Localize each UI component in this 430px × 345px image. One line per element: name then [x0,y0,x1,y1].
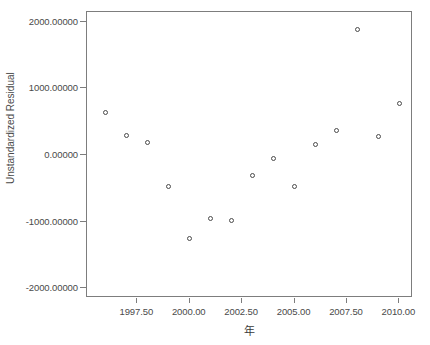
x-axis-tick-mark [136,298,137,303]
y-axis-tick-label: 2000.00000 [29,15,78,26]
data-point [292,184,297,189]
data-point [208,216,213,221]
data-point [124,133,129,138]
y-axis-title: Unstandardized Residual [0,162,22,184]
x-axis-tick-mark [189,298,190,303]
x-axis-tick-mark [294,298,295,303]
data-point [103,110,108,115]
plot-data-area [87,12,411,296]
x-axis-tick-label: 2007.50 [329,306,363,317]
data-point [355,27,360,32]
y-axis-tick-label: 0.00000 [44,149,78,160]
x-axis-tick-label: 2005.00 [277,306,311,317]
y-axis-tick-label: -2000.00000 [26,282,78,293]
data-point [166,184,171,189]
data-point [145,140,150,145]
plot-frame [86,11,412,297]
y-axis-tick-label: 1000.00000 [29,82,78,93]
x-axis-tick-label: 2002.50 [224,306,258,317]
data-point [250,173,255,178]
x-axis-tick-label: 2000.00 [172,306,206,317]
data-point [229,218,234,223]
x-axis-tick-mark [398,298,399,303]
x-axis-tick-label: 1997.50 [119,306,153,317]
data-point [376,134,381,139]
x-axis-tick-mark [241,298,242,303]
y-axis-tick-label: -1000.00000 [26,215,78,226]
y-axis-title-text: Unstandardized Residual [0,72,22,184]
x-axis-tick-label: 2010.00 [382,306,416,317]
data-point [271,156,276,161]
x-axis-title: 年 [86,322,412,338]
scatter-plot-figure: Unstandardized Residual 2000.000001000.0… [0,0,430,345]
data-point [397,101,402,106]
x-axis-tick-mark [346,298,347,303]
data-point [334,128,339,133]
data-point [187,236,192,241]
data-point [313,142,318,147]
